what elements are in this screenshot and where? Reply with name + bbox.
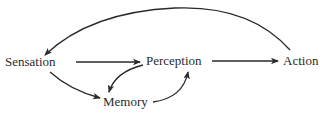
edge-perception-to-memory <box>109 65 143 92</box>
node-perception: Perception <box>146 53 202 68</box>
edge-action-to-sensation <box>45 8 290 55</box>
edge-sensation-to-memory <box>50 72 100 98</box>
node-sensation: Sensation <box>5 54 56 69</box>
node-memory: Memory <box>103 94 148 109</box>
perception-action-diagram: Sensation Perception Action Memory <box>0 0 334 117</box>
edge-memory-to-perception <box>153 72 188 102</box>
node-action: Action <box>283 53 319 68</box>
